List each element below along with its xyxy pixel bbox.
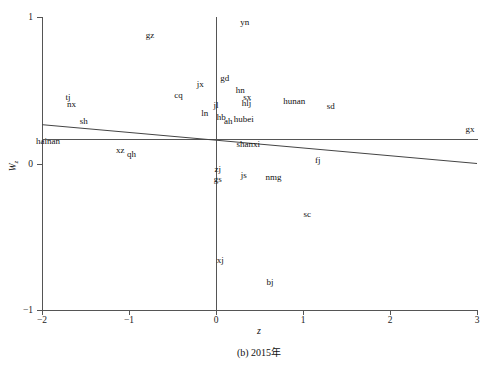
- point-label-xj: xj: [217, 256, 224, 265]
- fitted-regression-line: [42, 17, 478, 310]
- y-axis-title-subscript: z: [12, 161, 20, 164]
- x-tick-label: 2: [388, 315, 393, 325]
- point-label-nmg: nmg: [265, 172, 281, 181]
- figure-caption: (b) 2015年: [237, 344, 281, 359]
- y-axis-title: Wz: [8, 161, 21, 172]
- point-label-hainan: hainan: [36, 136, 60, 145]
- point-label-sd: sd: [327, 101, 335, 110]
- point-label-cq: cq: [174, 90, 183, 99]
- y-tick-mark: [37, 310, 42, 311]
- point-label-shanxi: shanxi: [236, 140, 260, 149]
- point-label-gd: gd: [220, 73, 229, 82]
- x-tick-label: 3: [475, 315, 480, 325]
- point-label-hunan: hunan: [283, 97, 305, 106]
- point-label-js: js: [241, 171, 247, 180]
- x-tick-label: 1: [301, 315, 306, 325]
- point-label-nx: nx: [67, 100, 76, 109]
- y-tick-label: 1: [28, 12, 33, 22]
- point-label-gs: gs: [214, 174, 222, 183]
- x-tick-label: 0: [214, 315, 219, 325]
- point-label-sc: sc: [304, 210, 312, 219]
- point-label-hlj: hlj: [242, 98, 252, 107]
- point-label-gz: gz: [146, 31, 155, 40]
- point-label-hubei: hubei: [234, 114, 254, 123]
- point-label-sh: sh: [80, 117, 88, 126]
- y-axis-title-main: W: [8, 163, 18, 171]
- point-label-fj: fj: [315, 155, 321, 164]
- y-tick-label: −1: [23, 305, 33, 315]
- point-label-qh: qh: [127, 149, 136, 158]
- plot-area: −2−10123 −101 gzyngdjxhncqsxtjhljhunansd…: [42, 17, 477, 310]
- y-tick-label: 0: [28, 159, 33, 169]
- point-label-ln: ln: [201, 108, 208, 117]
- point-label-jx: jx: [197, 79, 204, 88]
- x-tick-label: −2: [37, 315, 47, 325]
- point-label-gx: gx: [466, 125, 475, 134]
- point-label-zj: zj: [214, 164, 221, 173]
- scatter-plot-figure: −2−10123 −101 gzyngdjxhncqsxtjhljhunansd…: [0, 0, 490, 372]
- x-axis-title: z: [257, 325, 261, 336]
- point-label-jl: jl: [213, 100, 218, 109]
- point-label-yn: yn: [240, 18, 249, 27]
- point-label-xz: xz: [116, 145, 125, 154]
- x-axis-line: [42, 310, 478, 311]
- x-tick-label: −1: [124, 315, 134, 325]
- point-label-bj: bj: [266, 278, 273, 287]
- point-label-ah: ah: [224, 117, 233, 126]
